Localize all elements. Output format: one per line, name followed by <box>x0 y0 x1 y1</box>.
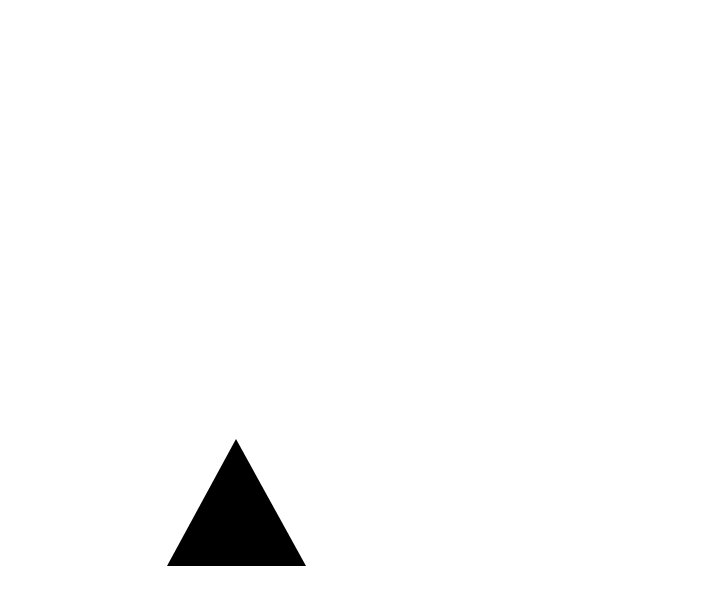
background <box>0 0 723 610</box>
diagram-canvas <box>0 0 723 610</box>
